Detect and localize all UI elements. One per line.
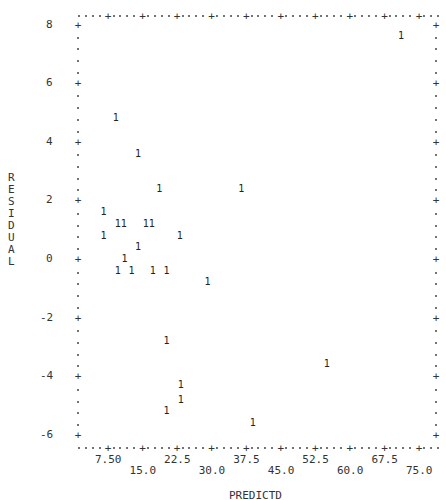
bottom-axis-tick: + xyxy=(381,443,388,454)
bottom-border-dot xyxy=(78,447,80,449)
left-border-dot xyxy=(77,72,79,74)
top-border-dot xyxy=(202,15,204,17)
top-border-dot xyxy=(195,15,197,17)
top-border-dot xyxy=(182,15,184,17)
left-border-dot xyxy=(77,213,79,215)
right-axis-tick: + xyxy=(433,78,440,89)
bottom-border-dot xyxy=(292,447,294,449)
left-axis-tick: + xyxy=(75,78,82,89)
top-border-dot xyxy=(161,15,163,17)
bottom-border-dot xyxy=(285,447,287,449)
left-border-dot xyxy=(77,189,79,191)
right-border-dot xyxy=(435,401,437,403)
top-border-dot xyxy=(223,15,225,17)
left-border-dot xyxy=(77,166,79,168)
left-border-dot xyxy=(77,119,79,121)
top-border-dot xyxy=(368,15,370,17)
bottom-border-dot xyxy=(271,447,273,449)
top-border-dot xyxy=(430,15,432,17)
top-border-dot xyxy=(299,15,301,17)
top-border-dot xyxy=(395,15,397,17)
x-tick-label: 37.5 xyxy=(233,454,260,465)
left-border-dot xyxy=(77,342,79,344)
bottom-border-dot xyxy=(99,447,101,449)
data-point: 1 xyxy=(156,184,162,194)
bottom-border-dot xyxy=(126,447,128,449)
top-border-dot xyxy=(389,15,391,17)
bottom-border-dot xyxy=(299,447,301,449)
y-tick-label: 0 xyxy=(46,253,53,264)
bottom-border-dot xyxy=(375,447,377,449)
left-border-dot xyxy=(77,37,79,39)
top-border-dot xyxy=(326,15,328,17)
top-border-dot xyxy=(375,15,377,17)
x-tick-label: 7.50 xyxy=(95,454,122,465)
top-border-dot xyxy=(402,15,404,17)
right-border-dot xyxy=(435,131,437,133)
top-border-dot xyxy=(147,15,149,17)
bottom-border-dot xyxy=(216,447,218,449)
left-border-dot xyxy=(77,248,79,250)
right-border-dot xyxy=(435,307,437,309)
right-border-dot xyxy=(435,248,437,250)
data-point: 1 xyxy=(100,231,106,241)
data-point: 1 xyxy=(205,277,211,287)
bottom-border-dot xyxy=(237,447,239,449)
top-border-dot xyxy=(264,15,266,17)
data-point: 1 xyxy=(238,184,244,194)
top-axis-tick: + xyxy=(174,11,181,22)
left-border-dot xyxy=(77,48,79,50)
bottom-border-dot xyxy=(395,447,397,449)
bottom-border-dot xyxy=(320,447,322,449)
bottom-border-dot xyxy=(326,447,328,449)
bottom-border-dot xyxy=(133,447,135,449)
top-axis-tick: + xyxy=(347,11,354,22)
top-border-dot xyxy=(99,15,101,17)
top-axis-tick: + xyxy=(416,11,423,22)
right-border-dot xyxy=(435,295,437,297)
bottom-border-dot xyxy=(361,447,363,449)
top-border-dot xyxy=(361,15,363,17)
top-axis-tick: + xyxy=(312,11,319,22)
bottom-axis-tick: + xyxy=(174,443,181,454)
top-border-dot xyxy=(154,15,156,17)
data-point: 1 xyxy=(150,266,156,276)
bottom-axis-tick: + xyxy=(312,443,319,454)
right-axis-tick: + xyxy=(433,429,440,440)
top-border-dot xyxy=(168,15,170,17)
top-border-dot xyxy=(216,15,218,17)
data-point: 1 xyxy=(122,254,128,264)
data-point: 1 xyxy=(324,359,330,369)
bottom-border-dot xyxy=(409,447,411,449)
left-axis-tick: + xyxy=(75,429,82,440)
top-border-dot xyxy=(133,15,135,17)
bottom-border-dot xyxy=(147,447,149,449)
data-point: 1 xyxy=(250,418,256,428)
right-border-dot xyxy=(435,424,437,426)
data-point: 1 xyxy=(100,207,106,217)
bottom-axis-tick: + xyxy=(139,443,146,454)
top-border-dot xyxy=(340,15,342,17)
top-border-dot xyxy=(78,15,80,17)
left-border-dot xyxy=(77,389,79,391)
bottom-border-dot xyxy=(389,447,391,449)
bottom-axis-tick: + xyxy=(416,443,423,454)
bottom-border-dot xyxy=(168,447,170,449)
top-border-dot xyxy=(85,15,87,17)
top-border-dot xyxy=(354,15,356,17)
y-tick-label: -2 xyxy=(40,312,53,323)
right-border-dot xyxy=(435,342,437,344)
right-border-dot xyxy=(435,225,437,227)
right-axis-tick: + xyxy=(433,312,440,323)
right-border-dot xyxy=(435,330,437,332)
residual-scatter-plot: ++++++++++++++++++++++++++++++++++++ 864… xyxy=(0,0,446,500)
data-point: 1 xyxy=(115,266,121,276)
x-tick-label: 52.5 xyxy=(302,454,329,465)
top-border-dot xyxy=(409,15,411,17)
top-border-dot xyxy=(92,15,94,17)
bottom-axis-tick: + xyxy=(105,443,112,454)
top-axis-tick: + xyxy=(105,11,112,22)
top-border-dot xyxy=(237,15,239,17)
top-border-dot xyxy=(306,15,308,17)
bottom-border-dot xyxy=(85,447,87,449)
